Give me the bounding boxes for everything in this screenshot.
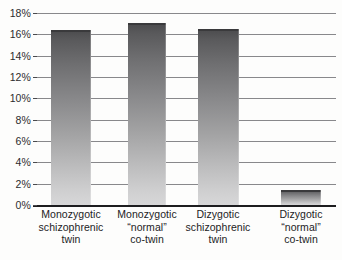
x-axis-category-labels: MonozygoticschizophrenictwinMonozygotic“… <box>0 208 342 260</box>
bar-chart-figure: 18%16%14%12%10%8%6%4%2%0% Monozygoticsch… <box>0 0 342 260</box>
x-axis-label-line: Dizygotic <box>255 208 342 221</box>
y-axis-tick-label: 10% <box>1 93 31 103</box>
y-axis-tick-mark <box>33 205 37 206</box>
y-axis-tick: 12% <box>0 72 31 82</box>
y-axis-tick-mark <box>33 56 37 57</box>
y-axis-tick-label: 2% <box>1 179 31 189</box>
x-axis-category-label: Dizygoticschizophrenictwin <box>172 208 264 246</box>
y-axis-tick-mark <box>33 34 37 35</box>
y-axis-tick: 2% <box>0 179 31 189</box>
y-axis-tick: 18% <box>0 8 31 18</box>
y-axis-tick-label: 4% <box>1 157 31 167</box>
y-axis-tick-mark <box>33 184 37 185</box>
x-axis-baseline <box>33 205 336 207</box>
y-axis-tick: 6% <box>0 136 31 146</box>
x-axis-label-line: “normal” <box>255 221 342 234</box>
y-axis-tick-label: 8% <box>1 115 31 125</box>
bar <box>281 190 321 205</box>
y-axis-tick-label: 12% <box>1 72 31 82</box>
bar <box>128 23 166 205</box>
y-axis-tick-label: 14% <box>1 51 31 61</box>
y-axis-tick-mark <box>33 13 37 14</box>
y-axis-tick: 10% <box>0 93 31 103</box>
y-axis-tick-mark <box>33 141 37 142</box>
x-axis-label-line: schizophrenic <box>172 221 264 234</box>
y-axis-tick-mark <box>33 98 37 99</box>
y-axis-tick-mark <box>33 162 37 163</box>
x-axis-label-line: co-twin <box>255 233 342 246</box>
x-axis-label-line: Dizygotic <box>172 208 264 221</box>
plot-area: 18%16%14%12%10%8%6%4%2%0% <box>0 0 342 218</box>
x-axis-label-line: twin <box>172 233 264 246</box>
y-axis-tick-label: 6% <box>1 136 31 146</box>
y-axis-tick-label: 18% <box>1 8 31 18</box>
bar <box>51 30 91 205</box>
y-axis-tick-mark <box>33 120 37 121</box>
y-axis-tick-mark <box>33 77 37 78</box>
bar <box>198 29 239 205</box>
y-axis-tick: 8% <box>0 115 31 125</box>
gridline <box>37 13 336 14</box>
y-axis-tick-label: 16% <box>1 29 31 39</box>
x-axis-category-label: Dizygotic“normal”co-twin <box>255 208 342 246</box>
y-axis-tick: 16% <box>0 29 31 39</box>
y-axis-tick: 4% <box>0 157 31 167</box>
y-axis-tick: 14% <box>0 51 31 61</box>
